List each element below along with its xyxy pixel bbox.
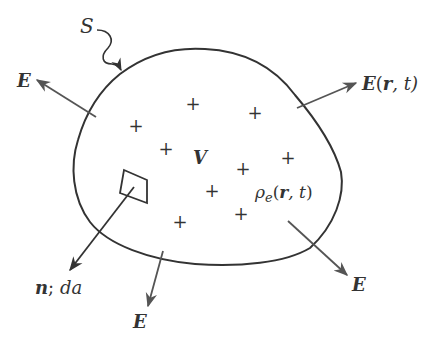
field-label-top-right: E(r, t) bbox=[361, 73, 418, 94]
field-symbol: E bbox=[361, 73, 376, 94]
paren-open: ( bbox=[273, 182, 280, 202]
charge-group: +++++++++ bbox=[128, 93, 295, 232]
field-arrow-bottom bbox=[148, 251, 163, 306]
area-element-patch bbox=[120, 170, 147, 203]
charge-density-label: ρe(r, t) bbox=[254, 182, 313, 205]
surface-label: S bbox=[80, 14, 94, 38]
field-arrow-bottom-right bbox=[288, 221, 347, 275]
paren-open: ( bbox=[376, 73, 383, 94]
charge-plus: + bbox=[280, 147, 295, 168]
gauss-law-diagram: +++++++++ S V E E(r, t) ρe(r, t) E E n; … bbox=[0, 0, 442, 351]
field-label-bottom-right: E bbox=[351, 274, 366, 295]
normal-area-label: n; da bbox=[35, 277, 82, 298]
volume-label: V bbox=[193, 147, 209, 168]
field-label-top-left: E bbox=[16, 70, 31, 91]
charge-plus: + bbox=[128, 115, 143, 136]
field-arrow-top-left bbox=[37, 80, 96, 117]
charge-plus: + bbox=[172, 211, 187, 232]
field-arrow-top-right bbox=[297, 83, 356, 108]
separator: ; bbox=[48, 277, 60, 298]
normal-vector-arrow bbox=[70, 187, 134, 270]
charge-plus: + bbox=[235, 158, 250, 179]
rho-symbol: ρ bbox=[254, 182, 265, 202]
field-label-bottom: E bbox=[132, 311, 147, 332]
charge-plus: + bbox=[233, 203, 248, 224]
charge-plus: + bbox=[247, 102, 262, 123]
time-t: , t) bbox=[392, 73, 418, 94]
area-symbol: da bbox=[60, 277, 82, 298]
charge-plus: + bbox=[158, 138, 173, 159]
charge-plus: + bbox=[204, 180, 219, 201]
surface-pointer-arrow bbox=[97, 30, 121, 70]
time-t: , t bbox=[288, 182, 306, 202]
paren-close: ) bbox=[306, 182, 313, 202]
charge-plus: + bbox=[185, 93, 200, 114]
normal-symbol: n bbox=[35, 277, 48, 298]
